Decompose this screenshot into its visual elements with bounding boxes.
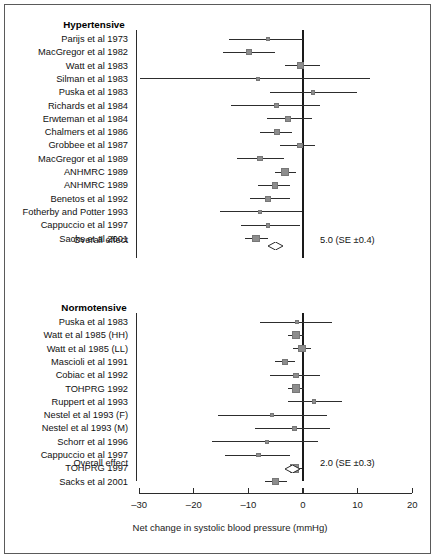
label-separator-rule-0 [136,30,137,258]
study-label: Erwteman et al 1984 [0,114,128,124]
study-label: Benetos et al 1992 [0,194,128,204]
study-label: Puska et al 1983 [0,317,128,327]
effect-marker [295,320,300,325]
effect-marker [256,77,260,81]
study-label: Fotherby and Potter 1993 [0,207,128,217]
study-label: Mascioli et al 1991 [0,357,128,367]
x-axis-tick-label: 0 [283,499,323,510]
figure-page: HypertensiveParijs et al 1973MacGregor e… [0,0,435,558]
x-axis-tick-label: –20 [174,499,214,510]
effect-marker [246,49,252,55]
study-label: Grobbee et al 1987 [0,140,128,150]
effect-marker [292,331,300,339]
study-label: MacGregor et al 1989 [0,154,128,164]
study-label: Puska et al 1983 [0,87,128,97]
x-axis-tick [302,488,303,493]
effect-marker [274,103,279,108]
effect-marker [266,37,271,42]
effect-marker [272,182,278,188]
null-effect-line-1 [302,313,303,481]
effect-marker [257,156,263,162]
effect-marker [266,223,271,228]
study-label: Chalmers et al 1986 [0,127,128,137]
effect-marker [265,440,269,444]
x-axis-tick [248,488,249,493]
effect-marker [281,168,289,176]
effect-marker [270,413,274,417]
x-axis-tick-label: 20 [392,499,432,510]
overall-effect-label: Overall effect [0,235,128,245]
effect-marker [274,129,280,135]
effect-marker [252,235,260,243]
study-label: Watt et al 1985 (HH) [0,330,128,340]
x-axis-tick [139,488,140,493]
effect-marker [272,478,279,485]
study-label: ANHMRC 1989 [0,167,128,177]
study-label: Ruppert et al 1993 [0,397,128,407]
x-axis-tick [193,488,194,493]
study-label: MacGregor et al 1982 [0,47,128,57]
effect-marker [292,384,300,392]
study-label: Watt et al 1985 (LL) [0,344,128,354]
effect-marker [292,426,297,431]
x-axis-tick-label: –30 [119,499,159,510]
overall-effect-value: 2.0 (SE ±0.3) [320,458,375,468]
effect-marker [297,143,303,149]
study-label: Silman et al 1983 [0,74,128,84]
effect-marker [256,453,261,458]
group-header-hypertensive: Hypertensive [60,19,128,30]
study-label: Cappuccio et al 1997 [0,220,128,230]
effect-marker [298,345,305,352]
effect-marker [258,210,263,215]
effect-marker [293,373,298,378]
effect-marker [285,116,291,122]
effect-marker [282,359,289,366]
study-label: Watt et al 1983 [0,61,128,71]
effect-marker [312,399,317,404]
overall-effect-diamond [285,459,300,477]
confidence-interval-line [241,225,301,226]
study-label: Schorr et al 1996 [0,437,128,447]
overall-effect-value: 5.0 (SE ±0.4) [320,235,375,245]
x-axis-line [139,493,412,494]
overall-effect-label: Overall effect [0,458,128,468]
label-separator-rule-1 [136,313,137,481]
study-label: ANHMRC 1989 [0,180,128,190]
x-axis-tick-label: 10 [338,499,378,510]
study-label: Nestel et al 1993 (M) [0,423,128,433]
study-label: Parijs et al 1973 [0,34,128,44]
study-label: Sacks et al 2001 [0,477,128,487]
x-axis-tick [412,488,413,493]
study-label: Cobiac et al 1992 [0,370,128,380]
x-axis-tick-label: –10 [228,499,268,510]
study-label: Nestel et al 1993 (F) [0,410,128,420]
effect-marker [265,196,271,202]
x-axis-tick [357,488,358,493]
effect-marker [297,62,304,69]
x-axis-title: Net change in systolic blood pressure (m… [60,522,400,533]
overall-effect-diamond [268,236,283,254]
study-label: TOHPRG 1992 [0,384,128,394]
study-label: Richards et al 1984 [0,101,128,111]
forest-plot: HypertensiveParijs et al 1973MacGregor e… [0,0,435,558]
effect-marker [311,90,316,95]
group-header-normotensive: Normotensive [60,302,128,313]
